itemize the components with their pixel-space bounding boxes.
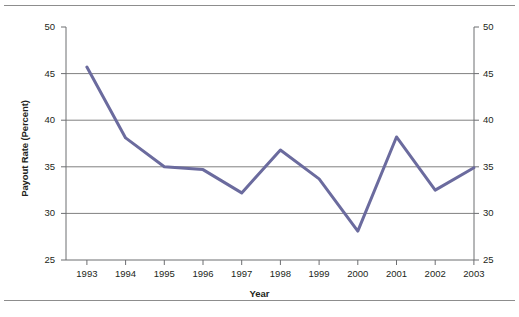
y-axis-left-tick-35: 35 [33,161,55,172]
y-axis-left-tick-50: 50 [33,21,55,32]
y-axis-right-tick-40: 40 [483,114,505,125]
y-axis-left-tick-40: 40 [33,114,55,125]
x-axis-tick-1996: 1996 [183,268,223,279]
y-axis-left-tick-25: 25 [33,254,55,265]
x-axis-tick-2003: 2003 [454,268,494,279]
x-axis-tick-2000: 2000 [338,268,378,279]
y-axis-right-tick-30: 30 [483,207,505,218]
x-axis-tick-1997: 1997 [222,268,262,279]
figure-container: Payout Rate (Percent) Year 50 45 40 35 3… [0,0,519,317]
y-axis-left-tick-30: 30 [33,207,55,218]
x-axis-tick-1994: 1994 [106,268,146,279]
y-axis-right-tick-45: 45 [483,68,505,79]
gridlines [66,74,474,214]
x-axis-tick-1998: 1998 [260,268,300,279]
chart-plot-area: Payout Rate (Percent) Year 50 45 40 35 3… [0,0,519,317]
x-axis-tick-1995: 1995 [144,268,184,279]
x-axis-tick-1993: 1993 [67,268,107,279]
y-axis-right-tick-50: 50 [483,21,505,32]
y-axis-left-ticks [61,27,66,260]
x-axis-tick-1999: 1999 [299,268,339,279]
y-axis-left-tick-45: 45 [33,68,55,79]
x-axis-tick-2001: 2001 [377,268,417,279]
x-axis-ticks [87,260,474,265]
x-axis-tick-2002: 2002 [415,268,455,279]
y-axis-right-tick-25: 25 [483,254,505,265]
y-axis-right-ticks [474,27,479,260]
x-axis-title: Year [0,288,519,299]
data-series-line [87,67,474,231]
y-axis-title: Payout Rate (Percent) [19,79,30,219]
y-axis-right-tick-35: 35 [483,161,505,172]
axis-spines [66,27,474,260]
